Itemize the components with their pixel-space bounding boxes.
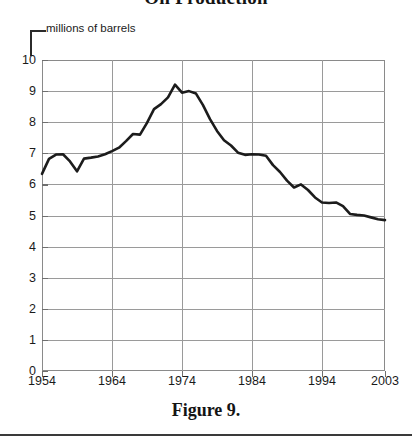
page-title: Oil Production <box>0 0 412 9</box>
y-axis-tick-label: 5 <box>2 209 36 223</box>
y-axis-tick-label: 6 <box>2 177 36 191</box>
x-axis-tick-label: 2003 <box>371 374 399 388</box>
figure-caption: Figure 9. <box>0 400 412 421</box>
plot-area <box>42 60 385 371</box>
x-axis-tick-label: 1994 <box>308 374 336 388</box>
y-axis-tick-mark <box>42 91 48 92</box>
y-axis-tick-label: 7 <box>2 146 36 160</box>
y-axis-tick-label: 8 <box>2 115 36 129</box>
x-axis-labels: 195419641974198419942003 <box>0 374 412 396</box>
y-axis-tick-mark <box>42 60 48 61</box>
y-axis-tick-mark <box>42 184 48 185</box>
data-polyline <box>42 85 385 221</box>
x-axis-tick-label: 1974 <box>168 374 196 388</box>
callout-leader-line <box>30 30 46 32</box>
y-axis-tick-mark <box>42 216 48 217</box>
y-axis-tick-label: 9 <box>2 84 36 98</box>
x-axis-tick-label: 1984 <box>238 374 266 388</box>
y-axis-tick-label: 2 <box>2 302 36 316</box>
y-axis-tick-mark <box>42 309 48 310</box>
bottom-divider <box>0 434 412 436</box>
y-axis-tick-mark <box>42 122 48 123</box>
y-axis-tick-label: 4 <box>2 240 36 254</box>
y-axis-units-label: millions of barrels <box>46 22 135 34</box>
y-axis-tick-mark <box>42 153 48 154</box>
x-axis-tick-label: 1964 <box>98 374 126 388</box>
y-axis-tick-mark <box>42 278 48 279</box>
y-axis-labels: 012345678910 <box>0 60 36 371</box>
y-axis-tick-label: 3 <box>2 271 36 285</box>
oil-production-line-series <box>42 60 385 371</box>
y-axis-tick-label: 1 <box>2 333 36 347</box>
x-axis-tick-label: 1954 <box>28 374 56 388</box>
y-axis-tick-mark <box>42 340 48 341</box>
y-axis-tick-mark <box>42 247 48 248</box>
y-axis-tick-label: 10 <box>2 53 36 67</box>
